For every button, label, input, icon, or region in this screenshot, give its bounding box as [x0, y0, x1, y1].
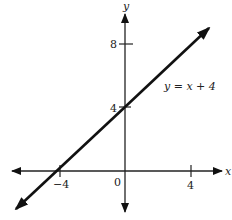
equation-label: y = x + 4	[163, 80, 216, 93]
tick-label-4: 4	[187, 179, 194, 192]
line-y-equals-x-plus-4	[125, 28, 209, 107]
line-y-equals-x-plus-4	[16, 107, 125, 209]
x-axis-label: x	[225, 165, 232, 178]
tick-label-y4: 4	[110, 102, 117, 115]
origin-label: 0	[114, 176, 121, 189]
tick-label-neg4: −4	[53, 178, 69, 191]
graph: y x 8 4 −4 0 4 y = x + 4	[0, 0, 232, 220]
tick-label-y8: 8	[110, 38, 117, 51]
y-axis-label: y	[122, 0, 130, 13]
